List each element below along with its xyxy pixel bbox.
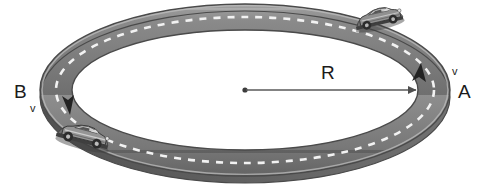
velocity-label-a: v: [452, 66, 458, 77]
racetrack-diagram: [0, 0, 490, 190]
radius-label: R: [321, 63, 335, 82]
point-a-label: A: [458, 82, 471, 101]
road-surface: [0, 0, 490, 190]
racetrack-figure: B v A v R: [0, 0, 490, 190]
velocity-label-b: v: [30, 103, 36, 114]
point-b-label: B: [14, 82, 27, 101]
